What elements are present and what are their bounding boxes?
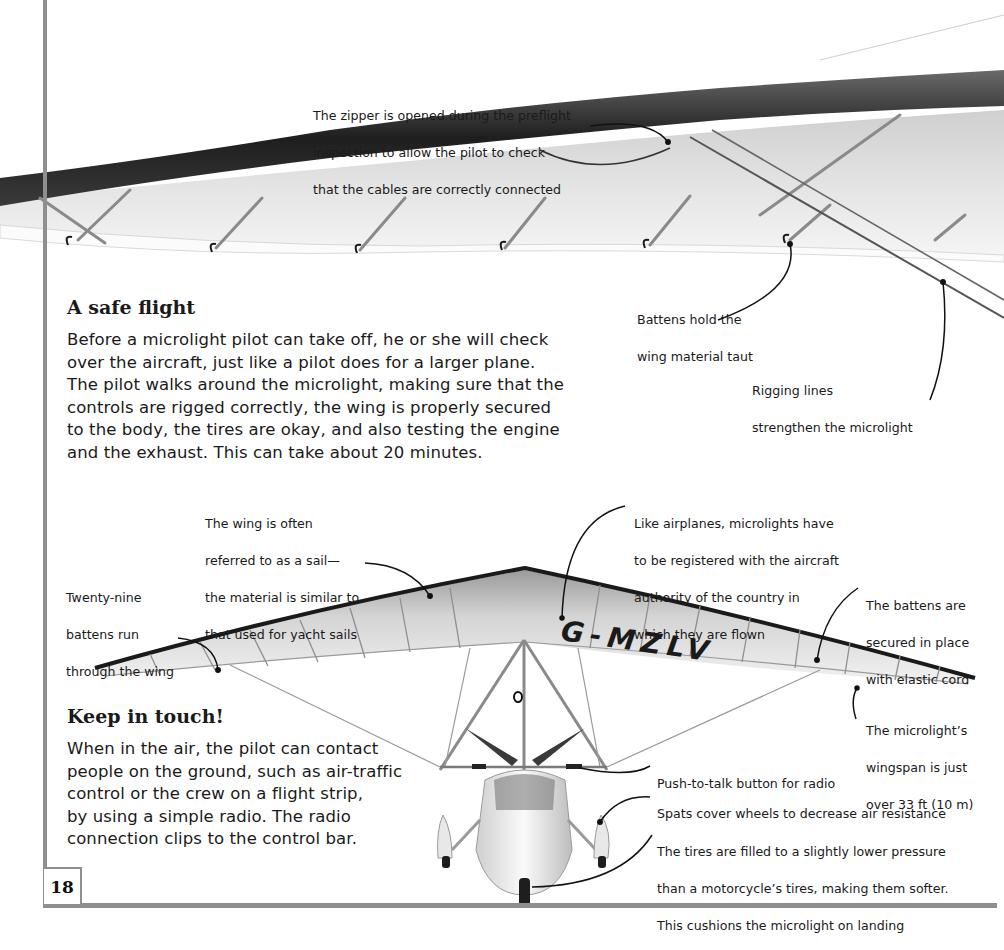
callout-sail: The wing is often referred to as a sail—… bbox=[205, 496, 359, 663]
callout-line: The battens are bbox=[866, 597, 969, 616]
callout-line: Like airplanes, microlights have bbox=[634, 515, 839, 534]
callout-tires: The tires are filled to a slightly lower… bbox=[657, 824, 949, 950]
callout-line: than a motorcycle’s tires, making them s… bbox=[657, 880, 949, 899]
callout-line: The wing is often bbox=[205, 515, 359, 534]
callout-registered: Like airplanes, microlights have to be r… bbox=[634, 496, 839, 663]
callout-line: that the cables are correctly connected bbox=[313, 181, 571, 200]
callout-line: The zipper is opened during the prefligh… bbox=[313, 107, 571, 126]
section-heading-keep-in-touch: Keep in touch! bbox=[67, 705, 224, 727]
section-heading-safe-flight: A safe flight bbox=[67, 296, 195, 318]
body-line: Before a microlight pilot can take off, … bbox=[67, 329, 564, 352]
callout-line: the material is similar to bbox=[205, 589, 359, 608]
callout-line: Rigging lines bbox=[752, 382, 913, 401]
callout-line: authority of the country in bbox=[634, 589, 839, 608]
callout-line: Battens hold the bbox=[637, 311, 753, 330]
callout-zipper: The zipper is opened during the prefligh… bbox=[313, 88, 571, 218]
callout-line: wing material taut bbox=[637, 348, 753, 367]
callout-line: Twenty-nine bbox=[66, 589, 174, 608]
body-line: to the body, the tires are okay, and als… bbox=[67, 419, 564, 442]
callout-line: with elastic cord bbox=[866, 671, 969, 690]
body-line: When in the air, the pilot can contact bbox=[67, 738, 402, 761]
body-line: controls are rigged correctly, the wing … bbox=[67, 397, 564, 420]
callout-elastic-cord: The battens are secured in place with el… bbox=[866, 578, 969, 708]
callout-line: battens run bbox=[66, 626, 174, 645]
body-line: over the aircraft, just like a pilot doe… bbox=[67, 352, 564, 375]
callout-line: The tires are filled to a slightly lower… bbox=[657, 843, 949, 862]
callout-line: Spats cover wheels to decrease air resis… bbox=[657, 805, 946, 824]
callout-line: strengthen the microlight bbox=[752, 419, 913, 438]
callout-line: inspection to allow the pilot to check bbox=[313, 144, 571, 163]
callout-line: that used for yacht sails bbox=[205, 626, 359, 645]
callout-battens-taut: Battens hold the wing material taut bbox=[637, 292, 753, 385]
body-line: The pilot walks around the microlight, m… bbox=[67, 374, 564, 397]
page-border-left bbox=[43, 0, 47, 908]
callout-line: wingspan is just bbox=[866, 759, 973, 778]
callout-twenty-nine-battens: Twenty-nine battens run through the wing bbox=[66, 570, 174, 700]
callout-line: which they are flown bbox=[634, 626, 839, 645]
callout-rigging: Rigging lines strengthen the microlight bbox=[752, 363, 913, 456]
page-number: 18 bbox=[50, 877, 74, 897]
body-line: people on the ground, such as air-traffi… bbox=[67, 761, 402, 784]
callout-line: The microlight’s bbox=[866, 722, 973, 741]
callout-line: referred to as a sail— bbox=[205, 552, 359, 571]
section-body-keep-in-touch: When in the air, the pilot can contact p… bbox=[67, 738, 402, 851]
callout-line: secured in place bbox=[866, 634, 969, 653]
body-line: by using a simple radio. The radio bbox=[67, 806, 402, 829]
page-number-box: 18 bbox=[44, 867, 82, 904]
body-line: connection clips to the control bar. bbox=[67, 828, 402, 851]
callout-line: through the wing bbox=[66, 663, 174, 682]
body-line: and the exhaust. This can take about 20 … bbox=[67, 442, 564, 465]
section-body-safe-flight: Before a microlight pilot can take off, … bbox=[67, 329, 564, 464]
body-line: control or the crew on a flight strip, bbox=[67, 783, 402, 806]
callout-line: to be registered with the aircraft bbox=[634, 552, 839, 571]
callout-line: This cushions the microlight on landing bbox=[657, 917, 949, 936]
